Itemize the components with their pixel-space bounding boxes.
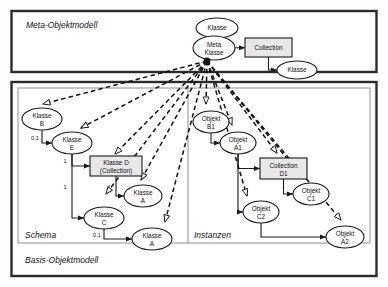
base-model-title: Basis-Objektmodell [25, 255, 99, 265]
node-label-primary: Collection [269, 162, 298, 169]
node-label-secondary: A [141, 197, 146, 204]
node-label-secondary: (Collection) [100, 167, 132, 175]
edge-multiplicity-label: 0,1 [31, 135, 39, 141]
class-ellipse-s_e[interactable]: KlasseE [52, 132, 92, 154]
node-label-primary: Klasse [94, 211, 114, 218]
node-label-secondary: B [40, 120, 44, 127]
node-label-primary: Klasse [133, 189, 153, 196]
node-label-secondary: E [70, 144, 74, 151]
class-ellipse-i_c1[interactable]: ObjektC1 [293, 183, 329, 205]
class-box-s_d[interactable]: Klasse D(Collection) [90, 156, 142, 176]
edge-multiplicity-label: 1 [63, 158, 66, 164]
class-ellipse-s_a2[interactable]: KlasseA [132, 228, 172, 250]
schema-title: Schema [25, 230, 56, 240]
diagram-root: Meta-Objektmodell Schema Instanzen Basis… [0, 0, 388, 287]
class-ellipse-i_a1[interactable]: ObjektA1 [220, 132, 256, 154]
instances-title: Instanzen [194, 230, 231, 240]
node-label-primary: Objekt [336, 230, 355, 238]
class-ellipse-s_b[interactable]: KlasseB [22, 108, 62, 130]
node-label-primary: Meta [207, 41, 222, 48]
node-label-primary: Objekt [302, 187, 321, 195]
class-ellipse-m_klasse[interactable]: Klasse [196, 18, 238, 38]
node-label-secondary: Klasse [204, 49, 224, 56]
hub-layer [204, 58, 211, 65]
instantiation-hub [204, 58, 211, 65]
node-label-secondary: D1 [279, 170, 288, 177]
node-label-secondary: A2 [341, 238, 349, 245]
class-ellipse-i_b1[interactable]: ObjektB1 [193, 111, 229, 133]
edge-multiplicity-label: 1 [63, 184, 66, 190]
class-ellipse-s_a1[interactable]: KlasseA [124, 185, 162, 207]
node-label-primary: Klasse [32, 112, 52, 119]
node-label-secondary: A1 [234, 144, 242, 151]
class-box-m_coll[interactable]: Collection [245, 38, 292, 57]
node-label-secondary: C [102, 219, 107, 226]
class-ellipse-m_meta[interactable]: MetaKlasse [193, 36, 235, 60]
node-label-secondary: C1 [307, 195, 316, 202]
class-box-i_d1[interactable]: CollectionD1 [260, 158, 307, 179]
class-ellipse-i_c2[interactable]: ObjektC2 [243, 201, 279, 223]
class-ellipse-i_a2[interactable]: ObjektA2 [326, 226, 364, 248]
node-label-primary: Collection [254, 44, 283, 51]
meta-model-title: Meta-Objektmodell [26, 20, 98, 30]
node-label-secondary: B1 [207, 123, 215, 130]
node-label-primary: Klasse [62, 136, 82, 143]
diagram-canvas: Meta-Objektmodell Schema Instanzen Basis… [0, 0, 388, 287]
node-label-secondary: A [150, 240, 155, 247]
class-ellipse-m_klasse2[interactable]: Klasse [277, 61, 317, 79]
node-label-primary: Objekt [202, 115, 221, 123]
node-label-secondary: C2 [257, 213, 266, 220]
node-label-primary: Klasse [207, 24, 227, 31]
node-label-primary: Klasse D [103, 159, 129, 166]
node-label-primary: Klasse [142, 232, 162, 239]
class-ellipse-s_c[interactable]: KlasseC [84, 207, 124, 229]
node-label-primary: Objekt [252, 205, 271, 213]
node-label-primary: Klasse [287, 66, 307, 73]
node-label-primary: Objekt [229, 136, 248, 144]
edge-multiplicity-label: 0,1 [93, 232, 101, 238]
